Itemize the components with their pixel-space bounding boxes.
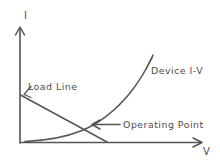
load-line: [21, 95, 108, 142]
operating-point-label: Operating Point: [123, 119, 204, 130]
figure-canvas: I V Load Line Device I-V Operating Point: [0, 0, 220, 161]
load-line-label: Load Line: [28, 81, 78, 92]
x-axis-label: V: [203, 146, 210, 157]
operating-point-arrow: [92, 120, 120, 129]
device-curve-label: Device I-V: [151, 65, 203, 76]
y-axis-label: I: [24, 10, 27, 21]
y-axis: [16, 27, 25, 143]
iv-curve-figure: I V Load Line Device I-V Operating Point: [0, 0, 220, 161]
